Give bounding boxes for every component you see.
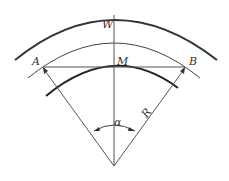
label-W: W [102,18,115,31]
angle-arrow-left [94,127,100,131]
angle-arrow-right [128,127,135,131]
label-A: A [31,55,40,68]
outer-arc [15,20,217,60]
arrowhead-A [43,67,48,74]
label-R: R [138,106,154,121]
arc-geometry-diagram: W A M B R α [0,0,229,181]
inner-arc [46,66,178,96]
label-alpha: α [114,116,122,129]
arrowhead-B [180,67,185,74]
label-M: M [116,55,129,68]
radius-OA [43,68,114,166]
label-B: B [188,55,197,68]
